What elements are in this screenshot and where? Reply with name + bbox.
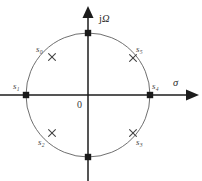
point-label-s3: s3	[136, 138, 142, 147]
origin-label: 0	[77, 100, 82, 110]
s-plane-pole-zero-figure: jΩ σ 0 s0 s5 s2 s3 s1 s4	[0, 0, 202, 181]
point-label-s0-sub: 0	[40, 49, 43, 55]
real-axis-arrowhead	[186, 90, 199, 101]
point-label-s1: s1	[13, 82, 19, 91]
point-label-s3-base: s	[136, 137, 140, 147]
marker-cross-s5	[130, 55, 137, 62]
point-label-s5-base: s	[136, 44, 140, 54]
point-label-s0-base: s	[36, 44, 40, 54]
point-label-s2-sub: 2	[42, 142, 45, 148]
point-label-s5-sub: 5	[140, 49, 143, 55]
point-label-s2: s2	[38, 138, 44, 147]
point-label-s5: s5	[136, 45, 142, 54]
imaginary-axis-label: jΩ	[99, 14, 110, 25]
point-label-s4: s4	[152, 82, 158, 91]
marker-square-s4	[147, 92, 153, 98]
point-label-s0: s0	[36, 45, 42, 54]
marker-square-top	[85, 30, 91, 36]
point-label-s1-base: s	[13, 81, 17, 91]
point-label-s4-sub: 4	[156, 86, 159, 92]
marker-square-bottom	[85, 154, 91, 160]
imaginary-axis-label-omega: Ω	[102, 13, 110, 24]
imaginary-axis-arrowhead	[83, 6, 94, 18]
real-axis-label: σ	[173, 78, 178, 89]
marker-square-s1	[23, 92, 29, 98]
point-label-s4-base: s	[152, 81, 156, 91]
point-label-s2-base: s	[38, 137, 42, 147]
plot-canvas	[0, 0, 202, 181]
marker-cross-s0	[49, 54, 56, 61]
point-label-s1-sub: 1	[17, 86, 20, 92]
marker-cross-s3	[130, 130, 137, 137]
marker-cross-s2	[49, 130, 56, 137]
point-label-s3-sub: 3	[140, 142, 143, 148]
